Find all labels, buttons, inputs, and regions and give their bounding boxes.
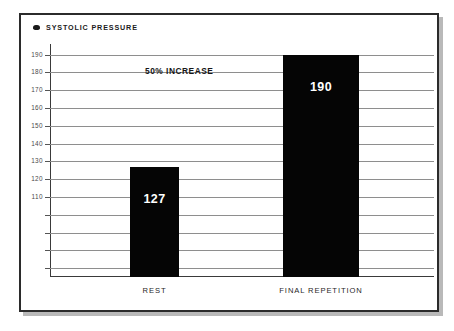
legend-label-systolic-pressure: SYSTOLIC PRESSURE <box>46 24 138 31</box>
y-axis-tick-label: 170 <box>31 87 43 93</box>
final-repetition-bar[interactable]: 190 <box>283 55 359 277</box>
bar-value-label: 190 <box>283 81 359 94</box>
chart-legend: SYSTOLIC PRESSURE <box>33 24 138 31</box>
bar-value-label: 127 <box>130 193 179 206</box>
y-axis-tick-label: 160 <box>31 105 43 111</box>
x-axis-labels-group: RESTFINAL REPETITION <box>50 287 434 301</box>
bars-group: 127190 <box>50 44 434 277</box>
x-axis-label-final-repetition: FINAL REPETITION <box>279 287 362 295</box>
y-axis-tick-label: 110 <box>32 194 43 200</box>
series-marker-icon <box>33 25 40 30</box>
y-axis-tick-label: 130 <box>31 158 43 164</box>
x-axis-label-rest: REST <box>143 287 167 295</box>
y-axis-tick-label: 180 <box>31 69 43 75</box>
chart-figure: SYSTOLIC PRESSURE 1901801701601501401301… <box>0 0 454 331</box>
y-axis-tick-label: 120 <box>31 176 43 182</box>
annotation-50-percent-increase: 50% INCREASE <box>145 67 213 75</box>
y-axis-tick-label: 150 <box>31 123 43 129</box>
y-axis-tick-label: 190 <box>31 51 43 57</box>
y-axis-tick-label: 140 <box>31 140 43 146</box>
chart-card: SYSTOLIC PRESSURE 1901801701601501401301… <box>19 13 439 312</box>
rest-bar[interactable]: 127 <box>130 167 179 277</box>
plot-area: 190180170160150140130120110 127190 50% I… <box>50 44 434 277</box>
